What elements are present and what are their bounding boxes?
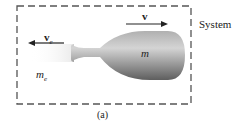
system-label: System xyxy=(199,19,231,30)
rocket-body xyxy=(71,31,185,80)
exhaust-mass-label: me xyxy=(36,69,47,83)
exhaust-velocity-subscript: e xyxy=(50,38,53,46)
exhaust-velocity-label: ve xyxy=(44,32,53,46)
figure-caption: (a) xyxy=(97,110,108,120)
rocket-velocity-arrowhead xyxy=(161,21,168,27)
exhaust-mass-symbol: m xyxy=(36,68,44,80)
exhaust-plume xyxy=(30,44,72,62)
rocket-mass-label: m xyxy=(141,48,149,59)
exhaust-mass-subscript: e xyxy=(44,75,47,83)
rocket-velocity-label: v xyxy=(142,11,148,22)
